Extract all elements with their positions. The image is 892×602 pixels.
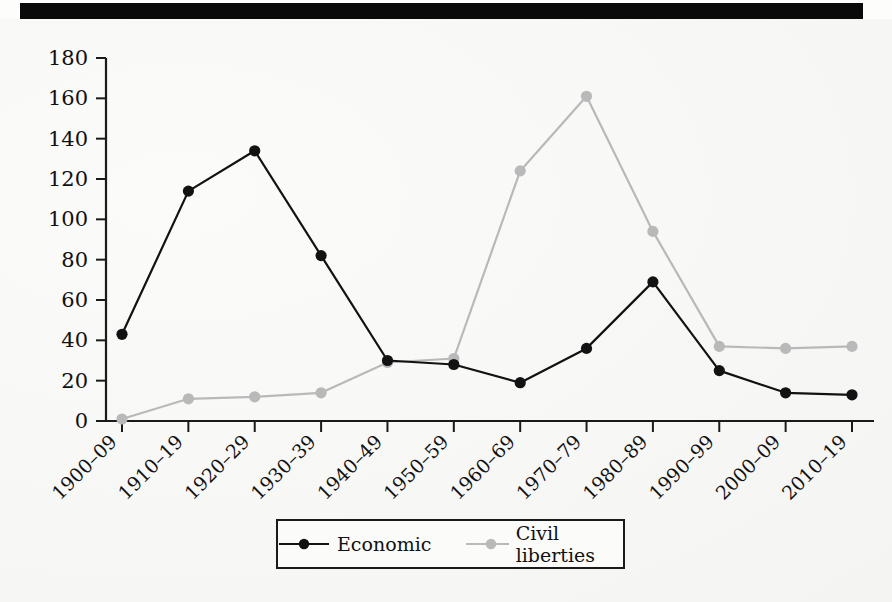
data-point-civil-liberties: [515, 165, 526, 176]
data-point-economic: [183, 186, 194, 197]
y-axis-tick-label: 60: [61, 288, 88, 312]
data-point-civil-liberties: [846, 341, 857, 352]
data-point-civil-liberties: [316, 387, 327, 398]
data-point-civil-liberties: [116, 413, 127, 424]
data-point-economic: [382, 355, 393, 366]
x-axis-tick-label: 1960–69: [445, 430, 519, 504]
data-point-economic: [316, 250, 327, 261]
x-axis-tick-label: 1950–59: [379, 430, 453, 504]
legend-item-economic[interactable]: Economic: [278, 533, 431, 555]
x-axis-tick-label: 1900–09: [47, 430, 121, 504]
data-point-civil-liberties: [714, 341, 725, 352]
series-line-civil-liberties: [122, 96, 852, 419]
y-axis-tick-label: 40: [61, 328, 88, 352]
series-line-economic: [122, 151, 852, 395]
y-axis-tick-label: 20: [61, 369, 88, 393]
legend-label-civil-liberties: Civil liberties: [516, 522, 623, 566]
x-axis-tick-label: 1980–89: [578, 430, 652, 504]
x-axis-tick-label: 1930–39: [246, 430, 320, 504]
data-point-civil-liberties: [249, 391, 260, 402]
data-point-economic: [647, 276, 658, 287]
chart-legend: Economic Civil liberties: [276, 519, 625, 569]
chart-canvas: 0204060801001201401601801900–091910–1919…: [0, 0, 892, 602]
scanned-page: 0204060801001201401601801900–091910–1919…: [0, 0, 892, 602]
line-chart: 0204060801001201401601801900–091910–1919…: [0, 0, 892, 602]
legend-label-economic: Economic: [337, 533, 431, 555]
x-axis-tick-label: 1920–29: [180, 430, 254, 504]
data-point-economic: [448, 359, 459, 370]
data-point-economic: [780, 387, 791, 398]
data-point-civil-liberties: [581, 91, 592, 102]
y-axis-tick-label: 120: [48, 167, 88, 191]
x-axis-tick-label: 2010–19: [777, 430, 851, 504]
legend-swatch-civil-liberties: [465, 536, 508, 552]
y-axis-tick-label: 0: [75, 409, 88, 433]
data-point-civil-liberties: [780, 343, 791, 354]
x-axis-tick-label: 1990–99: [645, 430, 719, 504]
y-axis-tick-label: 180: [48, 46, 88, 70]
data-point-economic: [714, 365, 725, 376]
y-axis-tick-label: 100: [48, 207, 88, 231]
data-point-economic: [846, 389, 857, 400]
legend-item-civil-liberties[interactable]: Civil liberties: [465, 522, 623, 566]
x-axis-tick-label: 1940–49: [313, 430, 387, 504]
y-axis-tick-label: 160: [48, 86, 88, 110]
data-point-economic: [116, 329, 127, 340]
x-axis-tick-label: 1910–19: [114, 430, 188, 504]
data-point-civil-liberties: [647, 226, 658, 237]
data-point-economic: [515, 377, 526, 388]
legend-swatch-economic: [278, 536, 330, 552]
x-axis-tick-label: 1970–79: [512, 430, 586, 504]
y-axis-tick-label: 140: [48, 127, 88, 151]
data-point-economic: [581, 343, 592, 354]
data-point-economic: [249, 145, 260, 156]
y-axis-tick-label: 80: [61, 248, 88, 272]
x-axis-tick-label: 2000–09: [711, 430, 785, 504]
data-point-civil-liberties: [183, 393, 194, 404]
